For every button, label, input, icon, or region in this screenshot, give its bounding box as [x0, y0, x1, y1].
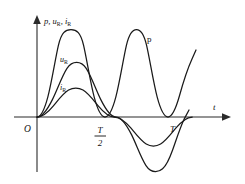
- curve-label-power: p: [147, 34, 152, 44]
- curve-label-voltage: uR: [60, 55, 68, 65]
- x-axis-label: t: [213, 102, 216, 112]
- x-axis-arrow-icon: [222, 113, 231, 121]
- curve-label-voltage-sub: R: [64, 59, 68, 65]
- curve-power-p: [37, 30, 196, 117]
- curve-label-current: iR: [60, 83, 66, 93]
- tick-half-period-denominator: 2: [98, 138, 103, 148]
- tick-label-half-period: T 2: [95, 125, 107, 148]
- tick-half-period-numerator: T: [97, 125, 103, 135]
- y-axis-label: p, uR, iR: [43, 16, 71, 27]
- curve-label-current-sub: R: [62, 87, 66, 93]
- y-axis-arrow-icon: [33, 15, 41, 24]
- origin-label: O: [24, 124, 31, 134]
- y-axis-label-p: p, u: [43, 16, 57, 26]
- y-axis-label-sub-r2: R: [67, 21, 71, 27]
- waveform-diagram: p, uR, iR t O T 2 T p uR iR: [0, 0, 245, 184]
